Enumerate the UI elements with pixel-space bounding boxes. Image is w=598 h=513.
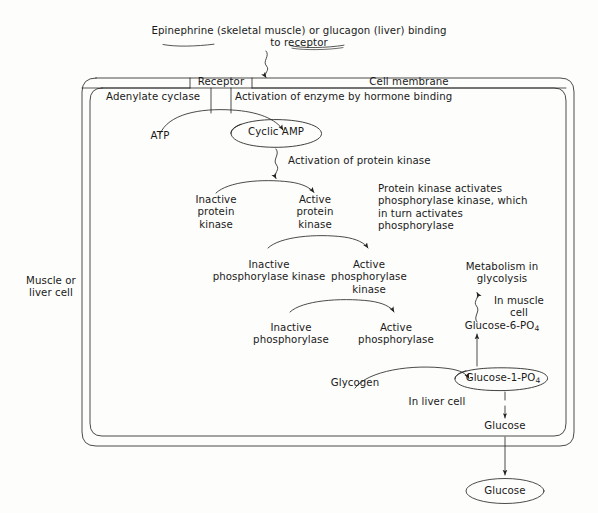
title-text: Epinephrine (skeletal muscle) or glucago…: [150, 25, 449, 50]
receptor-label: Receptor: [198, 76, 244, 88]
glucose-6-phosphate-label: Glucose-6-PO4: [465, 320, 540, 333]
inactive-phosphorylase-label: Inactive phosphorylase: [253, 322, 329, 347]
in-liver-cell-label: In liver cell: [409, 396, 466, 408]
inactive-protein-kinase-label: Inactive protein kinase: [195, 194, 236, 231]
inactive-phosphorylase-kinase-label: Inactive phosphorylase kinase: [213, 259, 326, 284]
activation-protein-kinase-label: Activation of protein kinase: [288, 155, 431, 167]
atp-label: ATP: [151, 130, 170, 142]
active-phosphorylase-kinase-label: Active phosphorylase kinase: [331, 259, 407, 296]
glucose-outside-label: Glucose: [484, 485, 525, 497]
glucose-6-phosphate-subscript: 4: [534, 324, 539, 333]
activation-enzyme-label: Activation of enzyme by hormone binding: [235, 91, 452, 103]
in-muscle-cell-label: In muscle cell: [494, 295, 544, 320]
glucose-inside-label: Glucose: [484, 420, 525, 432]
cyclic-amp-label: Cyclic AMP: [248, 126, 304, 138]
metabolism-glycolysis-label: Metabolism in glycolysis: [466, 261, 539, 286]
diagram-canvas: Epinephrine (skeletal muscle) or glucago…: [0, 0, 598, 513]
active-protein-kinase-label: Active protein kinase: [297, 194, 334, 231]
cell-membrane-label: Cell membrane: [369, 76, 448, 88]
explanation-text: Protein kinase activates phosphorylase k…: [378, 183, 528, 233]
outside-cell-label: Muscle or liver cell: [14, 275, 88, 300]
glucose-1-phosphate-label: Glucose-1-PO4: [466, 372, 541, 385]
glycogen-label: Glycogen: [331, 377, 380, 389]
active-phosphorylase-label: Active phosphorylase: [358, 322, 434, 347]
glucose-1-phosphate-text: Glucose-1-PO: [466, 372, 536, 383]
adenylate-cyclase-label: Adenylate cyclase: [106, 91, 200, 103]
glucose-1-phosphate-subscript: 4: [535, 376, 540, 385]
diagram-lines: [0, 0, 598, 513]
glucose-6-phosphate-text: Glucose-6-PO: [465, 320, 535, 331]
